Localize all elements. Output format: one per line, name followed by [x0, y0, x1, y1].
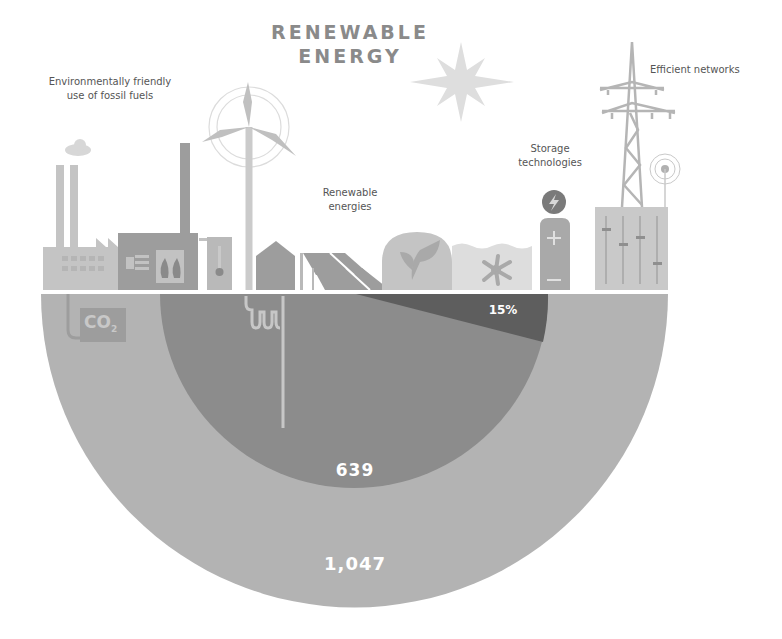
title-line-2: ENERGY [250, 44, 450, 68]
outer-value-label: 1,047 [310, 553, 400, 574]
factory-icon [43, 139, 118, 290]
inner-value-label: 639 [320, 460, 390, 480]
house-icon [256, 241, 295, 290]
storage-label-line-2: technologies [500, 156, 600, 170]
battery-icon [540, 190, 570, 290]
fossil-fuels-label: Environmentally friendly use of fossil f… [20, 75, 200, 103]
co2-subscript: 2 [111, 324, 117, 334]
wedge-value-label: 15% [478, 303, 528, 317]
storage-label-line-1: Storage [500, 142, 600, 156]
fossil-label-line-1: Environmentally friendly [20, 75, 200, 89]
substation-icon [595, 207, 668, 290]
storage-technologies-label: Storage technologies [500, 142, 600, 170]
fossil-label-line-2: use of fossil fuels [20, 89, 200, 103]
ground-line [41, 290, 668, 294]
co2-text: CO [84, 312, 111, 332]
page-title: RENEWABLE ENERGY [250, 20, 450, 68]
renewable-label-line-1: Renewable [300, 186, 400, 200]
renewable-label-line-2: energies [300, 200, 400, 214]
renewable-energies-label: Renewable energies [300, 186, 400, 214]
title-line-1: RENEWABLE [250, 20, 450, 44]
efficient-networks-label: Efficient networks [650, 63, 770, 77]
solar-panel-icon [300, 253, 390, 290]
antenna-icon [650, 154, 680, 207]
hydro-turbine-icon [452, 244, 532, 291]
biomass-plant-icon [382, 232, 452, 290]
gas-plant-icon [118, 143, 232, 290]
co2-label: CO2 [84, 312, 117, 334]
